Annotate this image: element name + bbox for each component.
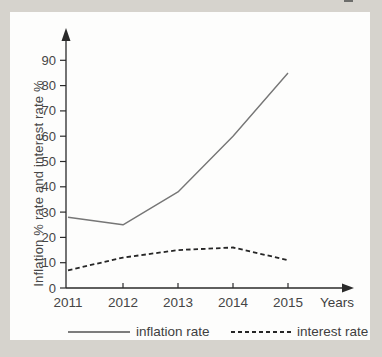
x-tick-label-2012: 2012 — [108, 295, 138, 310]
line-chart: 010203040506070809020112012201320142015 — [10, 12, 370, 340]
screenshot-root: 010203040506070809020112012201320142015 … — [0, 0, 382, 357]
x-axis-arrowhead — [342, 284, 354, 293]
x-tick-label-2015: 2015 — [273, 295, 303, 310]
x-tick-label-2014: 2014 — [218, 295, 249, 310]
x-tick-label-2011: 2011 — [53, 295, 82, 310]
inflation-rate-line-swatch — [68, 331, 130, 333]
legend-label-interest-rate: interest rate — [297, 324, 368, 339]
interest-rate-line-swatch — [231, 331, 291, 333]
legend-item-interest-rate: interest rate — [231, 324, 368, 339]
interest-rate-line — [68, 248, 288, 271]
y-tick-label-0: 0 — [49, 281, 56, 296]
legend-item-inflation-rate: inflation rate — [68, 324, 210, 339]
x-tick-label-2013: 2013 — [163, 295, 193, 310]
chart-panel: 010203040506070809020112012201320142015 … — [10, 12, 370, 340]
legend: inflation rate interest rate — [10, 324, 370, 342]
inflation-rate-line — [68, 73, 288, 225]
cropped-text-artifact — [344, 0, 353, 2]
legend-label-inflation-rate: inflation rate — [136, 324, 210, 339]
y-axis-title: Inflation % rate and interest rate % — [31, 59, 46, 309]
y-axis-arrowhead — [62, 28, 71, 41]
x-axis-title: Years — [320, 295, 354, 310]
